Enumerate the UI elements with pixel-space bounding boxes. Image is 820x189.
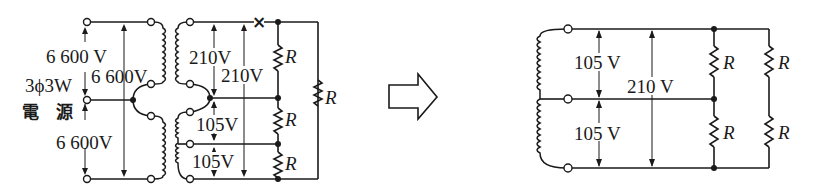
primary-voltage-bottom-label: 6 600V: [56, 132, 113, 153]
source-label: 電 源: [22, 102, 73, 122]
secondary-voltage-lower-bottom: 105V: [192, 151, 235, 172]
eq-voltage-lower: 105 V: [574, 123, 621, 144]
resistor-label-3: R: [284, 153, 297, 174]
resistor-label-2: R: [284, 109, 297, 130]
eq-resistor-label-2: R: [722, 122, 735, 143]
after-circuit: R R R R 105 V 105 V 210 V: [537, 25, 790, 172]
secondary-coil-upper: [176, 22, 189, 84]
resistor-label-4: R: [324, 87, 337, 108]
eq-resistor-label-3: R: [777, 52, 790, 73]
primary-coil-lower: [154, 116, 166, 179]
before-circuit: 6 600 V 6 600V 6 600V 3ϕ3W 電 源 ×: [22, 12, 337, 183]
circuit-diagram-figure: 6 600 V 6 600V 6 600V 3ϕ3W 電 源 ×: [0, 0, 820, 189]
primary-voltage-top-label: 6 600 V: [46, 46, 107, 67]
secondary-resistors: [274, 19, 322, 182]
eq-voltage-total: 210 V: [627, 76, 674, 97]
primary-coil-upper: [154, 22, 166, 84]
eq-voltage-upper: 105 V: [574, 52, 621, 73]
source-type-label: 3ϕ3W: [25, 75, 72, 96]
secondary-voltage-upper-right: 210V: [221, 65, 264, 86]
break-mark-icon: ×: [252, 12, 266, 32]
secondary-voltage-lower-top: 105V: [196, 114, 239, 135]
primary-voltage-across-label: 6 600V: [91, 66, 148, 87]
eq-resistor-label-4: R: [777, 122, 790, 143]
resistor-label-1: R: [284, 46, 297, 67]
eq-resistor-label-1: R: [722, 52, 735, 73]
right-arrow-icon: [389, 74, 437, 119]
